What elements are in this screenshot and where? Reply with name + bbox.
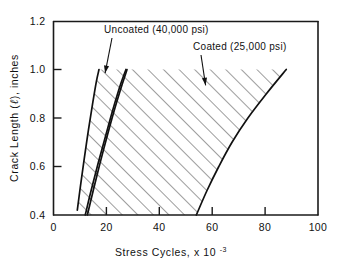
x-axis-title: Stress Cycles, x 10 -3 bbox=[115, 246, 227, 258]
y-tick-label: 0.8 bbox=[30, 112, 46, 124]
y-axis-tick-labels: 0.40.60.81.01.2 bbox=[30, 15, 46, 221]
x-tick-label: 80 bbox=[259, 221, 271, 233]
y-tick-label: 1.0 bbox=[30, 63, 46, 75]
y-axis-ticks bbox=[54, 70, 62, 167]
y-tick-label: 0.6 bbox=[30, 160, 46, 172]
y-tick-label: 0.4 bbox=[30, 209, 46, 221]
x-tick-label: 0 bbox=[50, 221, 56, 233]
x-tick-label: 20 bbox=[100, 221, 112, 233]
y-tick-label: 1.2 bbox=[30, 15, 46, 27]
x-tick-label: 60 bbox=[206, 221, 218, 233]
y-axis-title: Crack Length (ℓ), inches bbox=[7, 54, 21, 182]
x-axis-tick-labels: 020406080100 bbox=[50, 221, 327, 233]
x-tick-label: 100 bbox=[309, 221, 328, 233]
band-fills bbox=[77, 70, 286, 216]
annotation-label-uncoated: Uncoated (40,000 psi) bbox=[104, 24, 209, 35]
x-tick-label: 40 bbox=[153, 221, 165, 233]
crack-length-vs-stress-cycles-chart: 0.40.60.81.01.2 020406080100 Stress Cycl… bbox=[0, 0, 342, 265]
annotation-label-coated: Coated (25,000 psi) bbox=[193, 41, 287, 52]
chart-figure: 0.40.60.81.01.2 020406080100 Stress Cycl… bbox=[0, 0, 342, 265]
